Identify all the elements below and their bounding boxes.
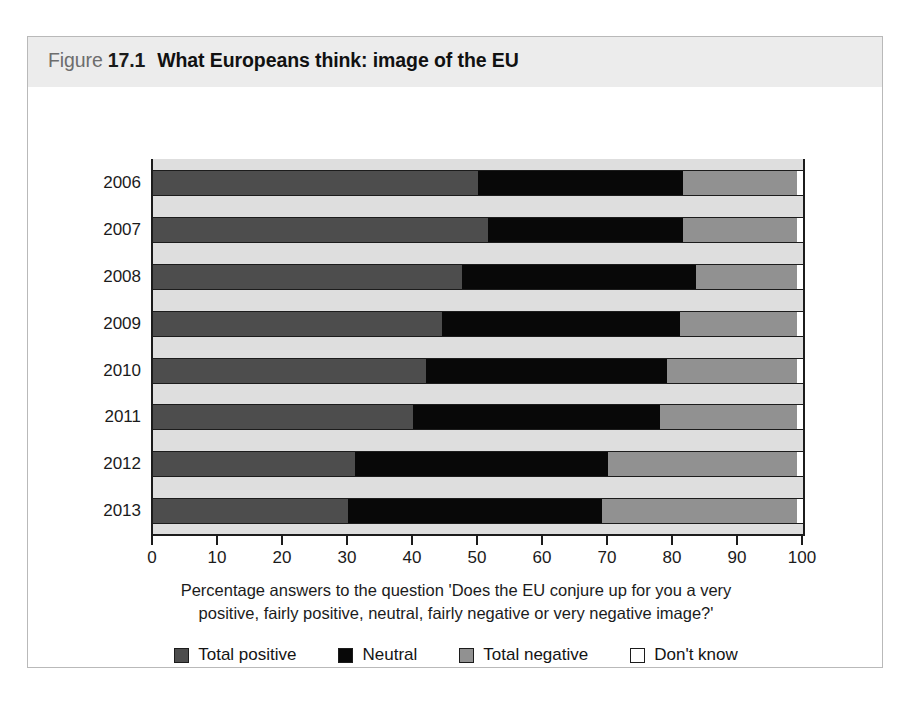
x-axis-tick [346,536,348,545]
caption-line-1: Percentage answers to the question 'Does… [28,579,883,602]
x-axis-tick [606,536,608,545]
bar-segment-positive [153,499,348,523]
legend-item[interactable]: Don't know [630,645,738,665]
bar-segment-dontknow [797,171,804,195]
bars-stack: 20062007200820092010201120122013 [153,159,803,534]
bar-segment-positive [153,171,478,195]
stacked-bar [153,404,803,430]
bar-slot: 2011 [153,393,803,440]
stacked-bar [153,264,803,290]
figure-panel: Figure17.1What Europeans think: image of… [27,36,883,668]
bar-segment-dontknow [797,499,804,523]
x-axis-tick-label: 0 [147,548,156,568]
stacked-bar [153,217,803,243]
x-axis-tick [801,536,803,545]
x-axis-tick [541,536,543,545]
chart-legend: Total positiveNeutralTotal negativeDon't… [28,645,883,665]
y-axis-tick-label: 2013 [103,498,141,524]
bar-segment-neutral [442,312,679,336]
x-axis-tick [411,536,413,545]
bar-segment-dontknow [797,405,804,429]
bar-segment-negative [683,218,797,242]
bar-segment-positive [153,405,413,429]
x-axis-tick-label: 70 [598,548,617,568]
x-axis-tick-label: 80 [663,548,682,568]
bar-segment-positive [153,452,355,476]
legend-swatch-icon [338,648,353,663]
x-axis-tick [281,536,283,545]
bar-segment-positive [153,218,488,242]
y-axis-tick-label: 2009 [103,311,141,337]
caption-line-2: positive, fairly positive, neutral, fair… [28,602,883,625]
stacked-bar [153,451,803,477]
y-axis-tick-label: 2008 [103,264,141,290]
legend-label: Neutral [362,645,417,665]
figure-title-band: Figure17.1What Europeans think: image of… [28,37,882,87]
bar-segment-positive [153,359,426,383]
chart-caption: Percentage answers to the question 'Does… [28,579,883,625]
stacked-bar [153,358,803,384]
legend-label: Don't know [654,645,738,665]
x-axis: 0102030405060708090100 [151,534,805,580]
stacked-bar [153,311,803,337]
x-axis-tick [151,536,153,545]
x-axis-tick [736,536,738,545]
bar-segment-positive [153,312,442,336]
figure-number: 17.1 [108,49,146,71]
bar-segment-positive [153,265,462,289]
x-axis-line [151,534,805,536]
bar-slot: 2012 [153,440,803,487]
bar-slot: 2013 [153,487,803,534]
stacked-bar [153,170,803,196]
bar-segment-negative [608,452,797,476]
bar-segment-negative [602,499,797,523]
bar-slot: 2006 [153,159,803,206]
bar-segment-neutral [413,405,660,429]
bar-segment-neutral [348,499,602,523]
y-axis-tick-label: 2006 [103,170,141,196]
bar-segment-dontknow [797,265,804,289]
bar-segment-neutral [355,452,609,476]
legend-item[interactable]: Total positive [174,645,296,665]
y-axis-tick-label: 2012 [103,451,141,477]
plot-area: 20062007200820092010201120122013 [151,159,805,534]
page-title: Figure17.1What Europeans think: image of… [48,49,519,72]
legend-swatch-icon [459,648,474,663]
bar-segment-negative [696,265,797,289]
bar-slot: 2007 [153,206,803,253]
bar-slot: 2009 [153,300,803,347]
legend-item[interactable]: Total negative [459,645,588,665]
x-axis-tick-label: 60 [533,548,552,568]
bar-segment-neutral [462,265,696,289]
bar-segment-negative [683,171,797,195]
x-axis-tick [476,536,478,545]
figure-label: Figure [48,49,103,71]
bar-slot: 2008 [153,253,803,300]
y-axis-tick-label: 2011 [104,404,141,430]
stacked-bar [153,498,803,524]
y-axis-tick-label: 2007 [103,217,141,243]
legend-label: Total positive [198,645,296,665]
x-axis-tick [671,536,673,545]
x-axis-tick-label: 30 [338,548,357,568]
bar-segment-dontknow [797,359,804,383]
bar-segment-neutral [426,359,667,383]
bar-segment-dontknow [797,312,804,336]
legend-item[interactable]: Neutral [338,645,417,665]
bar-segment-dontknow [797,452,804,476]
x-axis-tick-label: 90 [728,548,747,568]
bar-segment-neutral [488,218,683,242]
bar-segment-dontknow [797,218,804,242]
legend-swatch-icon [174,648,189,663]
legend-swatch-icon [630,648,645,663]
figure-title: What Europeans think: image of the EU [157,49,518,71]
bar-segment-neutral [478,171,683,195]
y-axis-tick-label: 2010 [103,358,141,384]
x-axis-tick-label: 100 [788,548,816,568]
bar-segment-negative [660,405,797,429]
bar-segment-negative [680,312,797,336]
chart-area: 20062007200820092010201120122013 0102030… [28,87,883,668]
x-axis-tick-label: 50 [468,548,487,568]
x-axis-tick-label: 10 [208,548,227,568]
x-axis-tick-label: 20 [273,548,292,568]
